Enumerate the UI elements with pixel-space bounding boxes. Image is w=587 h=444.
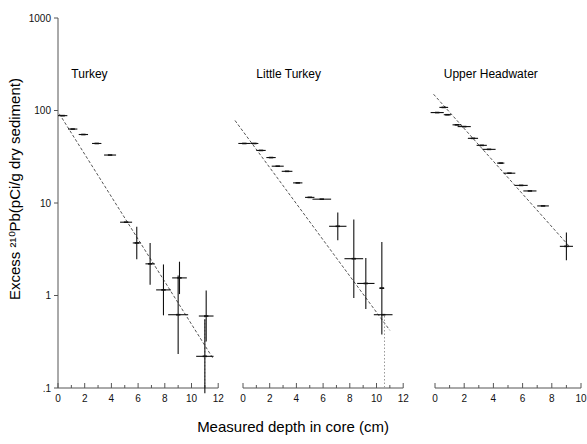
- x-tick-label: 12: [213, 393, 225, 404]
- regression-line: [434, 94, 570, 246]
- x-tick-label: 10: [371, 393, 383, 404]
- y-tick-label: 1000: [29, 13, 52, 24]
- x-tick-label: 6: [320, 393, 326, 404]
- x-tick-label: 12: [398, 393, 410, 404]
- x-tick-label: 0: [240, 393, 246, 404]
- y-tick-label: 1: [45, 290, 51, 301]
- x-axis-label: Measured depth in core (cm): [197, 418, 389, 435]
- x-tick-label: 6: [135, 393, 141, 404]
- panel-title: Little Turkey: [256, 67, 321, 81]
- x-tick-label: 10: [186, 393, 198, 404]
- data-point: [379, 242, 384, 334]
- regression-line: [59, 114, 213, 358]
- y-tick-label: 10: [40, 198, 52, 209]
- x-tick-label: 2: [267, 393, 273, 404]
- x-tick-label: 2: [461, 393, 467, 404]
- x-tick-label: 4: [294, 393, 300, 404]
- x-tick-label: 4: [491, 393, 497, 404]
- panel-title: Upper Headwater: [444, 67, 538, 81]
- data-point: [168, 275, 188, 354]
- x-tick-label: 8: [549, 393, 555, 404]
- x-tick-label: 0: [432, 393, 438, 404]
- x-tick-label: 8: [347, 393, 353, 404]
- data-point: [344, 219, 363, 298]
- data-point: [133, 227, 141, 259]
- panel-turkey: 024681012Turkey: [55, 67, 224, 404]
- panel-upper-headwater: 0246810Upper Headwater: [431, 67, 587, 404]
- data-point: [145, 243, 154, 285]
- data-point: [172, 262, 187, 294]
- data-point: [357, 258, 374, 309]
- panel-title: Turkey: [71, 67, 107, 81]
- regression-line: [235, 120, 390, 330]
- figure-root: 1000100101.1Excess ²¹⁰Pb(pCi/g dry sedim…: [0, 0, 587, 444]
- x-tick-label: 8: [162, 393, 168, 404]
- data-point: [329, 212, 346, 240]
- data-point: [199, 291, 214, 342]
- data-point: [560, 232, 573, 260]
- x-tick-label: 4: [109, 393, 115, 404]
- x-tick-label: 10: [575, 393, 587, 404]
- panel-little-turkey: 024681012Little Turkey: [235, 67, 409, 404]
- y-tick-label: .1: [43, 383, 52, 394]
- y-axis: 1000100101.1: [29, 13, 58, 394]
- chart-canvas: 1000100101.1Excess ²¹⁰Pb(pCi/g dry sedim…: [0, 0, 587, 444]
- y-tick-label: 100: [34, 105, 51, 116]
- data-point: [196, 319, 213, 393]
- x-tick-label: 0: [55, 393, 61, 404]
- x-tick-label: 2: [82, 393, 88, 404]
- x-tick-label: 6: [520, 393, 526, 404]
- y-axis-label: Excess ²¹⁰Pb(pCi/g dry sediment): [6, 78, 23, 300]
